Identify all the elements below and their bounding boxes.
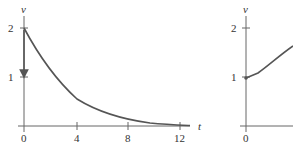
left-chart: v 2 1 0 4 8 12 t: [8, 3, 202, 144]
left-ytick-2: 2: [8, 22, 14, 34]
left-xtick-8: 8: [125, 132, 131, 144]
right-chart: v 2 1 0: [231, 3, 293, 144]
left-xlabel: t: [198, 120, 202, 132]
left-xtick-4: 4: [74, 132, 80, 144]
right-ylabel: v: [243, 3, 248, 15]
left-xtick-0: 0: [21, 132, 27, 144]
growth-curve: [246, 46, 293, 78]
left-ylabel: v: [21, 3, 26, 15]
decay-curve: [24, 28, 190, 126]
right-ytick-2: 2: [231, 22, 237, 34]
right-ytick-1: 1: [231, 71, 237, 83]
left-xtick-12: 12: [174, 132, 185, 144]
right-xtick-0: 0: [243, 132, 249, 144]
figure: v 2 1 0 4 8 12 t v 2 1 0: [0, 0, 293, 148]
start-point: [244, 76, 248, 80]
left-ytick-1: 1: [8, 71, 14, 83]
